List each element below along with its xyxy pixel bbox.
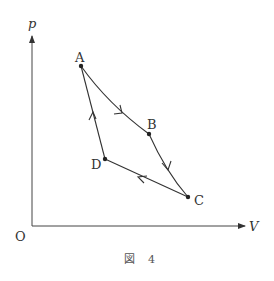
v-axis-label: V	[249, 219, 260, 234]
label-d: D	[91, 157, 101, 172]
label-a: A	[74, 50, 85, 65]
label-c: C	[194, 193, 204, 208]
origin-label: O	[15, 229, 26, 244]
label-b: B	[147, 117, 157, 132]
process-a-b	[81, 66, 149, 134]
axes	[32, 36, 245, 226]
point-d	[103, 157, 107, 161]
figure-caption-number: 4	[148, 253, 155, 266]
pv-diagram: p V O A B C D 図 4	[0, 0, 274, 281]
cycle	[81, 66, 188, 197]
process-c-d	[105, 159, 188, 197]
figure-caption-char: 図	[124, 253, 135, 266]
point-b	[147, 132, 151, 136]
point-c	[186, 195, 190, 199]
p-axis-label: p	[28, 16, 37, 31]
